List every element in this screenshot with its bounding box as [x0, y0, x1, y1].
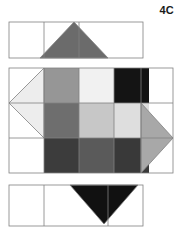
bottom-strip-cell-1 — [44, 185, 79, 226]
grid-cell-0-2 — [114, 68, 149, 103]
middle-panel — [9, 68, 173, 173]
pattern-figure: 4C — [0, 0, 181, 235]
grid-cell-2-0 — [44, 138, 79, 173]
bottom-strip-cell-0 — [9, 185, 44, 226]
grid-cell-1-1 — [79, 103, 114, 138]
grid-cell-0-1 — [79, 68, 114, 103]
grid-cell-0-0 — [44, 68, 79, 103]
center-grid — [44, 68, 149, 173]
figure-canvas — [0, 0, 181, 235]
grid-cell-1-0 — [44, 103, 79, 138]
top-strip — [9, 22, 143, 58]
left-lower-cell — [9, 138, 44, 173]
grid-cell-2-1 — [79, 138, 114, 173]
top-strip-cell-0 — [9, 22, 44, 58]
bottom-strip — [9, 185, 143, 226]
